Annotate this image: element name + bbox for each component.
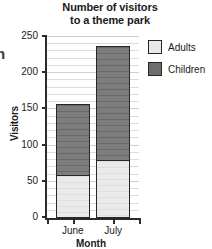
x-axis-tick-edge	[47, 218, 49, 224]
x-axis-tick-label-june: June	[50, 225, 96, 236]
bar-segment-adults[interactable]	[56, 175, 90, 218]
y-axis-tick-label: 0	[32, 211, 38, 222]
bar-segment-children[interactable]	[96, 46, 130, 162]
y-axis-tick: 50	[42, 180, 47, 182]
legend-swatch-adults	[148, 40, 162, 54]
x-axis-tick	[73, 218, 75, 224]
chart-legend: AdultsChildren	[148, 36, 205, 80]
plot-area: 050100150200250JuneJuly	[45, 37, 139, 220]
y-axis-tick: 100	[42, 144, 47, 146]
y-axis-tick-label: 150	[21, 102, 38, 113]
y-axis-tick: 250	[42, 35, 47, 37]
y-axis-tick: 150	[42, 107, 47, 109]
legend-item-adults[interactable]: Adults	[148, 36, 205, 58]
y-axis-tick: 200	[42, 71, 47, 73]
legend-item-children[interactable]: Children	[148, 58, 205, 80]
x-axis-tick-edge	[139, 218, 141, 224]
legend-swatch-children	[148, 62, 162, 76]
grid-line-major	[47, 36, 139, 37]
y-axis-tick-label: 250	[21, 30, 38, 41]
bar-segment-children[interactable]	[56, 104, 90, 176]
bar-july[interactable]	[96, 46, 130, 218]
y-axis-tick-label: 100	[21, 139, 38, 150]
y-axis-label: Visitors	[9, 94, 20, 154]
bar-segment-adults[interactable]	[96, 160, 130, 218]
chart-title-line-2: to a theme park	[34, 14, 186, 27]
y-axis-tick-label: 50	[27, 175, 38, 186]
chart-title: Number of visitors to a theme park	[34, 1, 186, 27]
legend-label-children: Children	[168, 64, 205, 75]
x-axis-label: Month	[45, 238, 137, 249]
bar-june[interactable]	[56, 104, 90, 218]
chart-title-line-1: Number of visitors	[34, 1, 186, 14]
x-axis-tick	[113, 218, 115, 224]
legend-label-adults: Adults	[168, 42, 196, 53]
grid-line-minor	[47, 43, 139, 44]
cropped-edge-text: n	[0, 46, 5, 61]
x-axis-tick-label-july: July	[90, 225, 136, 236]
y-axis-tick-label: 200	[21, 66, 38, 77]
